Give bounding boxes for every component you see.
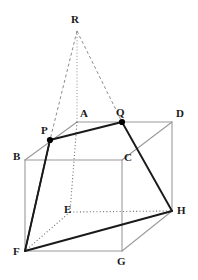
vertex-label-h: H — [177, 205, 186, 216]
section-line-hf — [25, 211, 172, 251]
geometry-figure: RAQDPBCEHFG — [0, 0, 198, 280]
section-line-pq — [50, 122, 122, 140]
vertex-label-p: P — [41, 125, 48, 136]
point-marker-p — [47, 137, 53, 143]
diagram-canvas — [0, 0, 198, 280]
apex-construction-lines-layer — [50, 31, 122, 140]
vertex-label-b: B — [13, 151, 20, 162]
hidden-edge-eh — [70, 211, 172, 212]
vertex-label-e: E — [64, 204, 71, 215]
vertex-label-f: F — [13, 246, 20, 257]
vertex-label-r: R — [71, 14, 79, 25]
section-line-qh — [122, 122, 172, 211]
apex-line-rp — [50, 31, 77, 140]
vertex-label-c: C — [124, 152, 132, 163]
vertex-label-q: Q — [116, 107, 125, 118]
vertex-label-a: A — [80, 108, 88, 119]
vertex-label-g: G — [117, 256, 126, 267]
vertex-label-d: D — [176, 108, 184, 119]
point-marker-q — [119, 119, 125, 125]
